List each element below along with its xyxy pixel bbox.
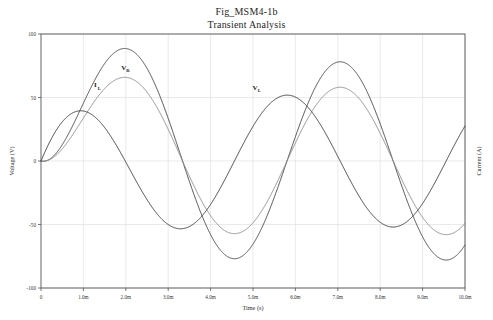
x-tick-label: 7.0m [333, 294, 344, 300]
series-label-il: IL [94, 81, 101, 90]
y-tick-label: -100 [26, 285, 36, 291]
x-axis-title: Time (s) [243, 304, 264, 312]
gridlines [41, 34, 465, 288]
x-tick-label: 6.0m [290, 294, 301, 300]
x-tick-label: 5.0m [248, 294, 259, 300]
y2-axis-title: Current (A) [475, 146, 483, 175]
x-tick-label: 2.0m [121, 294, 132, 300]
y-tick-label: -50 [29, 222, 36, 228]
x-tick-label: 3.0m [163, 294, 174, 300]
y-tick-label: 50 [31, 95, 37, 101]
x-tick-label: 4.0m [205, 294, 216, 300]
chart-canvas: Fig_MSM4-1b Transient Analysis 01.0m2.0m… [0, 0, 493, 320]
series-label-main: I [94, 81, 97, 89]
series-label-vr: VR [121, 64, 130, 73]
y-tick-label: 0 [33, 158, 36, 164]
transient-analysis-plot: 01.0m2.0m3.0m4.0m5.0m6.0m7.0m8.0m9.0m10.… [0, 0, 493, 320]
series-label-vl: VL [253, 84, 261, 93]
x-tick-label: 9.0m [417, 294, 428, 300]
x-tick-label: 10.0m [458, 294, 471, 300]
x-tick-label: 0 [40, 294, 43, 300]
x-tick-label: 8.0m [375, 294, 386, 300]
series-label-subscript: L [258, 88, 261, 93]
axis-ticks: 01.0m2.0m3.0m4.0m5.0m6.0m7.0m8.0m9.0m10.… [26, 31, 471, 300]
y-axis-title: Voltage (V) [8, 147, 16, 176]
series-label-subscript: R [126, 68, 130, 73]
series-label-subscript: L [98, 86, 101, 91]
x-tick-label: 1.0m [78, 294, 89, 300]
y-tick-label: 100 [28, 31, 36, 37]
